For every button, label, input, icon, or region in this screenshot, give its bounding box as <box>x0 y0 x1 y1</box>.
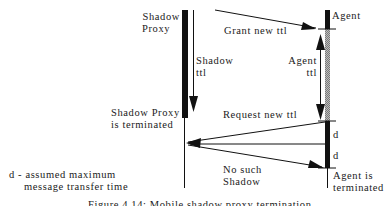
grant-message-label: Grant new ttl <box>224 25 287 37</box>
request-message-arrow <box>188 122 325 142</box>
agent-terminated-line1: Agent is <box>333 170 384 182</box>
shadow-terminated-line2: is terminated <box>111 119 180 131</box>
shadow-proxy-label: Shadow Proxy <box>138 11 180 35</box>
agent-ttl-line2: ttl <box>280 67 317 79</box>
shadow-ttl-label: Shadow ttl <box>196 55 233 79</box>
sequence-diagram: Shadow Proxy Agent Grant new ttl Shadow … <box>0 0 390 206</box>
figure-caption: Figure 4.14: Mobile shadow proxy termina… <box>88 199 312 206</box>
d-upper-label: d <box>333 129 339 141</box>
agent-ttl-arrow <box>316 34 325 120</box>
shadow-proxy-lifeline <box>182 10 188 188</box>
legend-line2: message transfer time <box>9 181 128 193</box>
agent-terminated-line2: terminated <box>333 182 384 194</box>
legend: d - assumed maximum message transfer tim… <box>9 169 128 193</box>
agent-terminated-label: Agent is terminated <box>333 170 384 194</box>
legend-line1: d - assumed maximum <box>9 169 128 181</box>
agent-ttl-label: Agent ttl <box>280 55 317 79</box>
shadow-ttl-line2: ttl <box>196 67 233 79</box>
no-such-shadow-label: No such Shadow <box>223 164 262 188</box>
request-message-label: Request new ttl <box>223 109 297 121</box>
no-such-line1: No such <box>223 164 262 176</box>
agent-label: Agent <box>332 10 361 22</box>
d-lower-label: d <box>333 150 339 162</box>
agent-ttl-line1: Agent <box>280 55 317 67</box>
shadow-ttl-line1: Shadow <box>196 55 233 67</box>
no-such-line2: Shadow <box>223 176 262 188</box>
shadow-proxy-label-line1: Shadow <box>138 11 180 23</box>
shadow-terminated-label: Shadow Proxy is terminated <box>111 107 180 131</box>
shadow-terminated-line1: Shadow Proxy <box>111 107 180 119</box>
shadow-proxy-label-line2: Proxy <box>138 23 180 35</box>
